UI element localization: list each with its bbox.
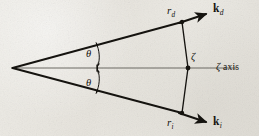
label-k-d-symbol: k: [213, 2, 219, 14]
figure-root: rd kd ri ki ζ ζ axis θ θ: [0, 0, 259, 136]
label-k-i-subscript: i: [220, 121, 222, 130]
chord-upper: [182, 22, 188, 68]
label-r-i: ri: [167, 117, 173, 128]
label-zeta-axis-word: axis: [223, 62, 239, 72]
label-r-i-subscript: i: [172, 123, 174, 131]
r-d-point-dot: [180, 20, 184, 24]
chord-lower: [182, 68, 188, 113]
label-r-d: rd: [167, 5, 175, 16]
label-k-i: ki: [213, 116, 222, 128]
label-r-d-symbol: r: [167, 4, 171, 16]
label-k-i-symbol: k: [213, 115, 219, 127]
label-k-d: kd: [213, 3, 223, 15]
label-r-i-symbol: r: [167, 116, 171, 128]
label-zeta-axis-symbol: ζ: [216, 61, 220, 72]
label-theta-upper: θ: [86, 49, 91, 60]
r-i-point-dot: [180, 111, 184, 115]
label-theta-lower: θ: [86, 78, 91, 89]
label-k-d-subscript: d: [220, 8, 224, 17]
label-zeta-axis: ζ axis: [216, 62, 239, 73]
label-zeta-point: ζ: [191, 52, 195, 63]
zeta-point-dot: [186, 66, 191, 71]
label-r-d-subscript: d: [172, 11, 176, 19]
